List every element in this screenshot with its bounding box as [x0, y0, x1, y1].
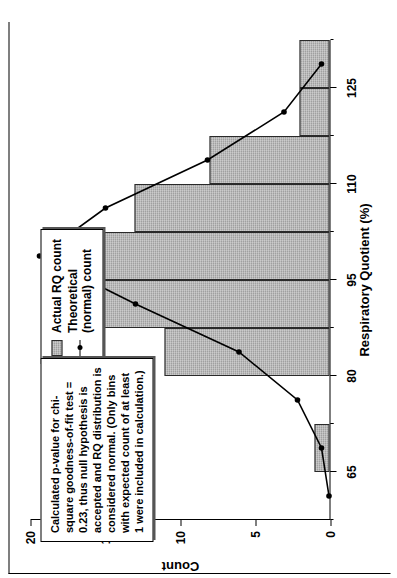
chart-figure: Count 05101520 658095110125 Respiratory …	[0, 0, 397, 578]
theoretical-data-point	[326, 493, 332, 499]
x-tick-minor	[330, 135, 333, 136]
y-tick-label: 5	[248, 531, 262, 538]
legend-label-theoretical: Theoretical (normal) count	[66, 249, 93, 333]
annotation-textbox: Calculated p-value for chi-square goodne…	[40, 358, 153, 542]
y-tick-label: 20	[23, 531, 37, 544]
x-tick-minor	[330, 519, 333, 520]
rotated-figure-container: Count 05101520 658095110125 Respiratory …	[0, 0, 397, 578]
x-tick-minor	[330, 279, 333, 280]
x-tick-minor	[330, 375, 333, 376]
x-tick-minor	[330, 231, 333, 232]
x-tick-minor	[330, 183, 333, 184]
y-tick: 5	[255, 520, 256, 526]
legend-item-theoretical-normal-count: Theoretical (normal) count	[66, 239, 93, 356]
y-tick-label: 10	[173, 531, 187, 544]
y-tick-label: 0	[323, 531, 337, 538]
y-tick: 10	[180, 520, 181, 526]
line-marker-icon	[74, 340, 85, 356]
legend-item-actual-rq-count: Actual RQ count	[50, 239, 63, 356]
x-axis-title: Respiratory Quotient (%)	[356, 40, 371, 520]
y-tick: 0	[330, 520, 331, 526]
bar-swatch-icon	[51, 340, 62, 356]
chart-legend: Actual RQ count Theoretical (normal) cou…	[40, 229, 103, 364]
legend-label-actual: Actual RQ count	[50, 239, 63, 333]
page-frame-top-rule	[8, 22, 9, 574]
theoretical-data-point	[318, 445, 324, 451]
x-tick-minor	[330, 471, 333, 472]
x-tick-minor	[330, 87, 333, 88]
x-tick-minor	[330, 423, 333, 424]
x-tick-minor	[330, 327, 333, 328]
y-tick: 20	[30, 520, 31, 526]
y-axis-title: Count	[161, 559, 199, 574]
x-tick-minor	[330, 39, 333, 40]
